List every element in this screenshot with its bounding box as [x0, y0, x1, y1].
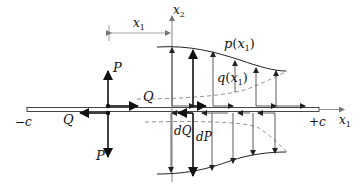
- upper-distributed-arrows: [172, 48, 305, 106]
- p-lower-label: P: [95, 148, 105, 163]
- left-crack-tip-label: −c: [15, 115, 32, 129]
- q-lower-label: Q: [63, 112, 74, 127]
- crack: [27, 108, 319, 112]
- dq-label: dQ: [174, 124, 192, 138]
- upper-load-curve: [157, 47, 286, 71]
- right-crack-tip-label: +c: [309, 115, 326, 129]
- force-point-lower: [106, 111, 110, 115]
- force-point-upper: [106, 104, 110, 108]
- q-upper-label: Q: [143, 89, 154, 104]
- upper-shear-curve: [137, 71, 287, 99]
- dp-label: dP: [196, 130, 213, 144]
- differential-force-arrows: [178, 50, 206, 176]
- p-upper-label: P: [112, 60, 122, 75]
- q-distribution-label: q(x1): [217, 70, 248, 87]
- crack-diagram: x2 x1 x1 −c +c P P Q Q p(x1) q(x1) dQ dP: [0, 0, 360, 185]
- lower-shear-curve: [145, 122, 287, 152]
- x2-axis-label: x2: [173, 3, 185, 19]
- x1-dimension-label: x1: [133, 16, 145, 32]
- lower-load-curve: [157, 152, 286, 174]
- x1-axis-label: x1: [339, 113, 351, 129]
- p-distribution-label: p(x1): [224, 36, 255, 53]
